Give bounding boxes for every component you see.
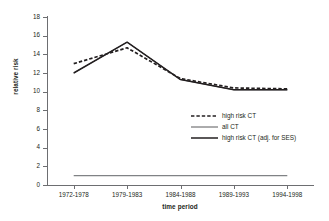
legend-item: high risk CT: [191, 110, 321, 121]
legend-label: high risk CT: [222, 110, 256, 121]
legend-label: high risk CT (adj. for SES): [222, 132, 296, 143]
legend-swatch-icon: [191, 114, 218, 117]
series-line-1: [74, 42, 288, 90]
series-line-2: [74, 42, 288, 90]
legend-swatch-icon: [191, 136, 218, 139]
legend-item: high risk CT (adj. for SES): [191, 132, 321, 143]
legend-label: all CT: [222, 121, 239, 132]
legend-swatch-icon: [191, 125, 218, 128]
chart-figure: relative risk time period 02468101214161…: [0, 0, 329, 221]
chart-legend: high risk CTall CThigh risk CT (adj. for…: [191, 110, 321, 143]
legend-item: all CT: [191, 121, 321, 132]
